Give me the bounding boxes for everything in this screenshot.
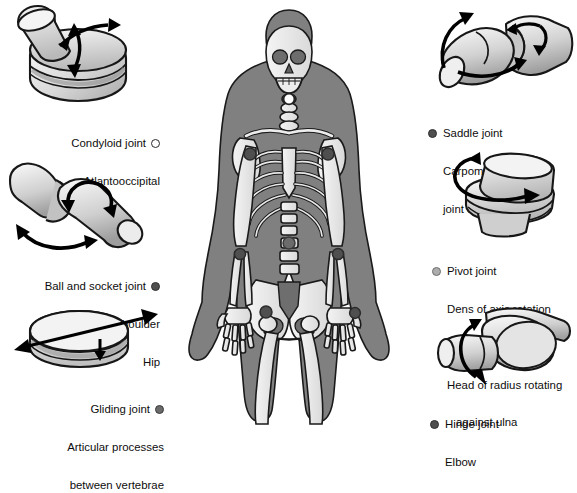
ball-and-socket-joint-illustration xyxy=(4,158,160,253)
panel-hinge-joint: Hinge joint Elbow xyxy=(430,305,577,493)
skeleton-marker-vertebral-articular-process xyxy=(283,237,295,249)
skeleton-marker-carpometacarpal-thumb xyxy=(350,308,361,319)
skeleton-marker-atlantooccipital xyxy=(284,94,295,105)
ball-and-socket-marker-dot xyxy=(151,282,160,291)
pivot-marker-dot xyxy=(432,267,441,276)
hinge-marker-dot xyxy=(430,420,439,429)
panel-gliding-joint: Gliding joint Articular processes betwee… xyxy=(8,303,164,493)
caption-gliding-joint: Gliding joint Articular processes betwee… xyxy=(8,378,164,493)
ball-and-socket-joint-label: Ball and socket joint xyxy=(45,280,146,292)
hinge-joint-label: Hinge joint xyxy=(445,418,499,430)
gliding-joint-label: Gliding joint xyxy=(90,403,150,415)
skeleton-marker-elbow-right xyxy=(332,248,343,259)
gliding-example-1: Articular processes xyxy=(8,441,164,454)
pivot-joint-label: Pivot joint xyxy=(447,265,496,277)
condyloid-joint-label: Condyloid joint xyxy=(71,137,146,149)
condyloid-joint-illustration xyxy=(8,4,160,108)
pivot-joint-illustration xyxy=(432,152,577,238)
condyloid-marker-dot xyxy=(151,139,160,148)
human-skeleton-anterior-view xyxy=(178,2,400,425)
gliding-marker-dot xyxy=(155,405,164,414)
skeleton-marker-elbow-left xyxy=(234,248,245,259)
skeleton-marker-hip xyxy=(260,306,272,318)
saddle-joint-label: Saddle joint xyxy=(443,127,503,139)
gliding-joint-illustration xyxy=(8,303,164,375)
hinge-example-1: Elbow xyxy=(430,456,576,469)
saddle-marker-dot xyxy=(428,129,437,138)
skeleton-marker-shoulder-left xyxy=(244,148,256,160)
gliding-example-2: between vertebrae xyxy=(8,479,164,492)
skeleton-marker-shoulder-right xyxy=(322,148,334,160)
hinge-joint-illustration xyxy=(430,305,577,389)
saddle-joint-illustration xyxy=(428,2,576,98)
caption-hinge-joint: Hinge joint Elbow xyxy=(430,393,576,493)
